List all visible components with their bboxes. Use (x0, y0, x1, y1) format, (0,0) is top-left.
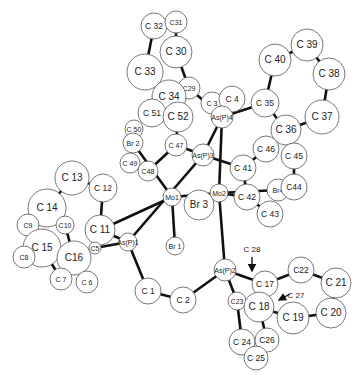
atom-C30: C 30 (160, 36, 192, 68)
atom-label: C 13 (61, 172, 83, 183)
atom-C44: C44 (281, 174, 307, 200)
atom-C22: C22 (288, 257, 314, 283)
atom-label: C 45 (285, 151, 303, 161)
atom-label: C 33 (134, 66, 156, 77)
atom-AsP3: As(P)3 (192, 144, 214, 166)
atom-C35: C 35 (251, 89, 279, 117)
atom-label: As(P)2 (214, 267, 236, 275)
atom-label: C 38 (318, 68, 340, 79)
atom-label: C 24 (233, 337, 251, 347)
atom-label: C 4 (225, 94, 239, 104)
atom-label: Br 1 (169, 243, 182, 250)
atom-label: C 11 (90, 224, 111, 235)
atom-label: C 17 (256, 279, 274, 289)
atom-label: As(P)1 (117, 239, 139, 247)
atom-label: C48 (142, 168, 155, 175)
atom-C8: C8 (13, 246, 35, 268)
atom-C45: C 45 (281, 143, 307, 169)
atom-label: C 25 (247, 353, 265, 363)
atom-label: C 15 (31, 242, 53, 253)
atom-C39: C 39 (291, 29, 323, 61)
atom-label: Mo2 (212, 190, 226, 197)
atom-C42: C 42 (234, 184, 260, 210)
atom-label: C 42 (238, 192, 256, 202)
atom-C48: C48 (138, 161, 158, 181)
atom-C13: C 13 (55, 161, 89, 195)
atom-Br1: Br 1 (166, 237, 184, 255)
atom-label: C 47 (169, 142, 184, 149)
atom-label: C 3 (207, 100, 218, 107)
atom-label: Mo1 (165, 194, 179, 201)
atom-label: C 7 (56, 276, 67, 283)
atom-label: C 43 (261, 209, 279, 219)
atom-label: C 46 (257, 144, 275, 154)
atom-label: C 52 (167, 111, 189, 122)
atom-C12: C 12 (89, 174, 117, 202)
atom-C25: C 25 (244, 346, 268, 370)
ortep-plot: C 32C31C 30C 33C29C 34C 51C 52C 3C 4As(P… (0, 0, 364, 383)
atom-label: C 34 (158, 91, 180, 102)
atom-label: C 18 (248, 301, 270, 312)
atom-C1: C 1 (135, 278, 161, 304)
atom-label: C44 (286, 182, 302, 192)
atom-label: C9 (24, 222, 33, 229)
atom-C31: C31 (165, 11, 187, 33)
atom-label: C 19 (282, 312, 304, 323)
atom-C23: C23 (228, 292, 246, 310)
atom-label: C26 (259, 335, 275, 345)
atom-label: C10 (59, 222, 72, 229)
atom-AsP2: As(P)2 (214, 259, 236, 281)
atom-C2: C 2 (170, 287, 196, 313)
annotation-label: C 28 (244, 245, 261, 254)
atom-C47: C 47 (165, 134, 187, 156)
atom-C32: C 32 (141, 13, 167, 39)
atom-Br3: Br 3 (184, 190, 214, 220)
atom-label: C 32 (145, 21, 163, 31)
atom-C38: C 38 (313, 58, 345, 90)
atom-label: C 6 (82, 279, 93, 286)
atom-label: C 50 (127, 126, 142, 133)
bond-AsP4-Mo2 (219, 117, 222, 193)
atom-C41: C 41 (230, 155, 256, 181)
atom-Br2: Br 2 (123, 133, 143, 153)
atom-label: C8 (20, 254, 29, 261)
atom-C19: C 19 (277, 302, 309, 334)
atom-label: C 12 (94, 183, 112, 193)
atom-C37: C 37 (305, 100, 339, 134)
atom-label: Br 3 (190, 199, 209, 210)
atom-label: C 21 (325, 277, 347, 288)
atom-label: C31 (170, 19, 183, 26)
atom-label: C 41 (234, 163, 252, 173)
atom-AsP4: As(P)4 (211, 106, 233, 128)
atom-label: C 49 (123, 160, 138, 167)
atom-label: C23 (231, 298, 244, 305)
atom-C52: C 52 (163, 102, 193, 132)
atom-label: Br 2 (127, 140, 140, 147)
atom-label: C5 (91, 245, 100, 252)
annotation-label: C 27 (288, 291, 305, 300)
atom-label: As(P)3 (192, 152, 214, 160)
atom-C5: C5 (89, 242, 101, 254)
atom-layer: C 32C31C 30C 33C29C 34C 51C 52C 3C 4As(P… (13, 11, 351, 370)
atom-label: As(P)4 (211, 114, 233, 122)
atom-label: C 51 (143, 108, 161, 118)
atom-C20: C 20 (316, 298, 346, 328)
atom-label: C 2 (176, 295, 190, 305)
atom-C6: C 6 (76, 271, 98, 293)
atom-C46: C 46 (253, 136, 279, 162)
atom-label: C 37 (311, 111, 333, 122)
atom-label: C 30 (165, 46, 187, 57)
atom-label: C 40 (264, 54, 286, 65)
atom-C11: C 11 (85, 215, 115, 245)
atom-C51: C 51 (138, 99, 166, 127)
atom-label: C22 (293, 265, 309, 275)
atom-Mo1: Mo1 (163, 188, 181, 206)
atom-label: C 35 (256, 98, 274, 108)
atom-C18: C 18 (244, 292, 274, 322)
atom-label: C 20 (320, 307, 342, 318)
atom-C49: C 49 (120, 153, 140, 173)
atom-C43: C 43 (257, 201, 283, 227)
atom-label: C 36 (275, 124, 297, 135)
atom-C7: C 7 (50, 268, 72, 290)
atom-C40: C 40 (259, 44, 291, 76)
